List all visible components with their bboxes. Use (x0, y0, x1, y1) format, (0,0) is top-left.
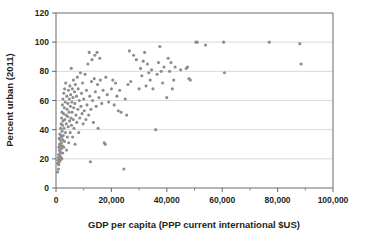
data-point (61, 151, 64, 154)
data-point (168, 70, 171, 73)
data-point (69, 93, 72, 96)
x-tick-label-40000: 40,000 (154, 195, 180, 205)
data-point (126, 83, 129, 86)
data-point (87, 114, 90, 117)
data-point (120, 111, 123, 114)
y-tick-label-60: 60 (40, 96, 50, 106)
data-point (76, 76, 79, 79)
data-point (66, 135, 69, 138)
data-point (74, 83, 77, 86)
data-point (143, 51, 146, 54)
x-tick-label-60000: 60,000 (209, 195, 235, 205)
data-point (165, 96, 168, 99)
data-point (223, 71, 226, 74)
data-point (62, 146, 65, 149)
data-point (94, 90, 97, 93)
data-point (96, 83, 99, 86)
y-axis-ticks (52, 13, 56, 188)
data-point (125, 114, 128, 117)
data-point (73, 90, 76, 93)
data-point (67, 125, 70, 128)
x-tick-label-80000: 80,000 (265, 195, 291, 205)
data-point (106, 93, 109, 96)
data-point (63, 140, 66, 143)
data-point (79, 105, 82, 108)
data-point (85, 103, 88, 106)
y-tick-label-40: 40 (40, 125, 50, 135)
data-point (68, 119, 71, 122)
data-point (129, 80, 132, 83)
data-point (158, 45, 161, 48)
data-point (56, 170, 59, 173)
data-point (111, 79, 114, 82)
data-point (107, 100, 110, 103)
data-point (66, 102, 69, 105)
data-point (60, 157, 63, 160)
data-point (140, 74, 143, 77)
data-point (89, 108, 92, 111)
data-point (151, 87, 154, 90)
y-tick-label-120: 120 (35, 8, 49, 18)
data-point (62, 127, 65, 130)
data-point (57, 163, 60, 166)
data-point (67, 111, 70, 114)
data-point (75, 95, 78, 98)
data-point (124, 97, 127, 100)
data-point (161, 81, 164, 84)
data-point (69, 105, 72, 108)
x-tick-label-100000: 100,000 (318, 195, 349, 205)
x-axis-ticks (56, 188, 333, 192)
data-point (189, 79, 192, 82)
data-point (99, 79, 102, 82)
data-point (72, 106, 75, 109)
data-point (138, 87, 141, 90)
data-point (65, 122, 68, 125)
data-point (84, 118, 87, 121)
data-point (64, 131, 67, 134)
data-point (89, 160, 92, 163)
data-point (76, 108, 79, 111)
data-point (122, 167, 125, 170)
data-point (59, 127, 62, 130)
data-point (77, 131, 80, 134)
data-point (68, 97, 71, 100)
data-point (104, 76, 107, 79)
x-tick-label-0: 0 (54, 195, 59, 205)
data-point (98, 57, 101, 60)
data-point (97, 96, 100, 99)
data-point (61, 103, 64, 106)
data-point (93, 54, 96, 57)
data-point (115, 95, 118, 98)
data-point (72, 127, 75, 130)
data-point (71, 111, 74, 114)
data-point (63, 118, 66, 121)
data-point (69, 131, 72, 134)
y-tick-label-20: 20 (40, 154, 50, 164)
data-point (100, 102, 103, 105)
data-point (60, 116, 63, 119)
data-point (97, 127, 100, 130)
data-point (82, 122, 85, 125)
data-point (174, 65, 177, 68)
data-point (117, 109, 120, 112)
chart-canvas: 020,00040,00060,00080,000100,000 0204060… (0, 0, 375, 238)
data-point (71, 135, 74, 138)
data-point (85, 89, 88, 92)
data-point (60, 141, 63, 144)
data-point (61, 124, 64, 127)
data-point (72, 118, 75, 121)
data-point (65, 149, 68, 152)
y-tick-label-100: 100 (35, 37, 49, 47)
data-point (88, 95, 91, 98)
data-point (167, 57, 170, 60)
data-point (78, 99, 81, 102)
data-point (114, 81, 117, 84)
data-point (57, 167, 60, 170)
data-point (128, 49, 131, 52)
data-point (63, 106, 66, 109)
data-point (144, 84, 147, 87)
y-tick-label-0: 0 (44, 183, 49, 193)
data-point (132, 54, 135, 57)
data-point (92, 121, 95, 124)
data-point (88, 51, 91, 54)
